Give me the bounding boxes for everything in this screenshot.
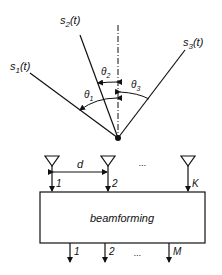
spacing-label: d <box>77 158 84 170</box>
input-label-K: K <box>192 178 200 189</box>
angle-label-theta3: θ3 <box>131 79 140 92</box>
antenna-ellipsis: ... <box>139 158 147 168</box>
input-label-1: 1 <box>56 178 62 189</box>
output-label-2: 2 <box>108 246 115 257</box>
signal-ray-s2 <box>80 35 118 138</box>
origin-point <box>115 135 121 141</box>
signal-ray-s3 <box>118 50 185 138</box>
signal-label-s1: s1(t) <box>10 60 31 75</box>
output-label-1: 1 <box>74 246 80 257</box>
angle-arc-theta3 <box>120 92 149 99</box>
input-label-2: 2 <box>111 178 118 189</box>
angle-label-theta1: θ1 <box>84 89 93 102</box>
beamforming-label: beamforming <box>90 212 155 224</box>
angle-label-theta2: θ2 <box>101 66 110 79</box>
beamforming-diagram: s1(t) s2(t) s3(t) θ2 θ3 θ1 d ... 1 2 K b… <box>0 0 222 275</box>
signal-label-s3: s3(t) <box>183 36 204 51</box>
output-ellipsis: ... <box>134 248 142 258</box>
output-label-M: M <box>173 246 182 257</box>
signal-label-s2: s2(t) <box>60 14 81 29</box>
angle-arc-theta2 <box>98 82 117 83</box>
